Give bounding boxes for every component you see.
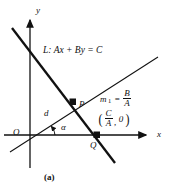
slope-denominator: A [123,98,131,108]
intercept-fraction: C A [105,109,113,128]
point-Q-marker [94,132,101,139]
point-P-label: P [79,100,85,109]
x-intercept-coordinate-label: ( C A , 0 ) [98,110,130,129]
figure-canvas [0,0,173,187]
slope-fraction: B A [123,89,131,108]
angle-alpha-label: α [61,123,66,132]
intercept-y-value: 0 [119,115,124,124]
paren-open: ( [99,112,103,127]
origin-label: O [13,128,20,137]
slope-numerator: B [123,89,131,98]
slope-subscript: 1 [108,98,111,105]
slope-symbol: m [100,95,107,104]
line-distance-figure: y x O L: Ax + By = C m1 = B A ( C A , 0 … [0,0,173,187]
line-L-equation-label: L: Ax + By = C [43,46,102,56]
paren-close: ) [125,112,129,127]
intercept-denominator: A [105,118,113,128]
slope-equals-sign: = [115,95,120,104]
point-P-marker [70,99,77,106]
distance-label: d [44,109,49,118]
intercept-comma: , [114,118,116,127]
y-axis-label: y [36,6,40,15]
point-Q-label: Q [90,141,97,150]
x-axis-label: x [157,130,161,139]
figure-caption: (a) [44,172,55,182]
intercept-numerator: C [105,109,113,118]
angle-alpha-arc [52,127,56,136]
slope-label: m1 = B A [100,89,131,109]
